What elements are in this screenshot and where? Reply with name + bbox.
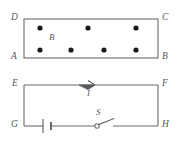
- switch-lever[interactable]: [99, 119, 115, 125]
- field-dot: [37, 25, 42, 30]
- circuit-label-E: E: [12, 79, 18, 89]
- circuit-label-H: H: [162, 120, 169, 130]
- field-dot: [133, 47, 138, 52]
- physics-figure: D C A B B E F G H I S: [0, 0, 178, 141]
- field-dot: [133, 25, 138, 30]
- figure-canvas: [0, 0, 178, 141]
- field-dot: [68, 47, 73, 52]
- field-label-B-corner: B: [162, 52, 168, 62]
- battery-symbol: [43, 119, 51, 133]
- field-label-A: A: [11, 52, 17, 62]
- current-label: I: [87, 89, 90, 98]
- circuit-label-F: F: [162, 79, 168, 89]
- magnetic-field-label: B: [49, 33, 55, 42]
- switch-label: S: [96, 108, 101, 117]
- field-dot: [101, 47, 106, 52]
- circuit-label-G: G: [11, 120, 18, 130]
- circuit-diagram: [24, 81, 158, 134]
- switch-symbol[interactable]: [95, 119, 114, 129]
- field-label-D: D: [11, 13, 18, 23]
- field-dot: [37, 47, 42, 52]
- field-label-C: C: [162, 13, 168, 23]
- field-dot: [85, 25, 90, 30]
- magnetic-field-region: [24, 19, 158, 58]
- field-rectangle-outline: [24, 19, 158, 58]
